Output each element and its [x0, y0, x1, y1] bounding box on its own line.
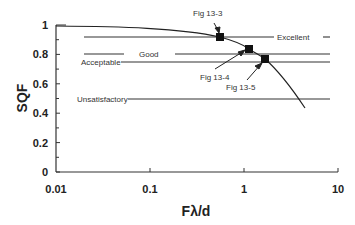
fig-13-5-label: Fig 13-5: [226, 83, 256, 92]
y-tick-label: 0.8: [33, 48, 48, 60]
fig-13-4-label: Fig 13-4: [200, 73, 230, 82]
y-axis-title: SQF: [14, 83, 30, 112]
marker-fig-13-3: [216, 33, 224, 41]
x-tick-label: 0.01: [45, 183, 66, 195]
acceptable-label: Acceptable: [81, 58, 121, 67]
x-tick-label: 0.1: [142, 183, 157, 195]
sqf-chart: 0 0.2 0.4 0.6 0.8 1 0.01 0.1 1 10 Fλ/d S…: [0, 0, 355, 225]
x-axis-title: Fλ/d: [182, 203, 211, 219]
y-tick-label: 1: [42, 19, 48, 31]
y-tick-label: 0.4: [33, 107, 49, 119]
marker-fig-13-5: [261, 55, 269, 63]
fig-13-3-label: Fig 13-3: [193, 9, 223, 18]
x-tick-label: 10: [332, 183, 344, 195]
unsatisfactory-label: Unsatisfactory: [77, 95, 128, 104]
threshold-lines: [84, 37, 330, 99]
annotation-arrows: [214, 23, 262, 80]
good-label: Good: [139, 50, 159, 59]
marker-fig-13-4: [245, 45, 253, 53]
x-tick-label: 1: [241, 183, 247, 195]
y-tick-label: 0.2: [33, 137, 48, 149]
y-tick-label: 0: [42, 166, 48, 178]
excellent-label: Excellent: [277, 33, 310, 42]
y-tick-label: 0.6: [33, 78, 48, 90]
